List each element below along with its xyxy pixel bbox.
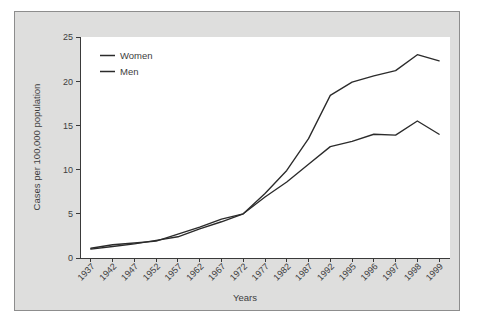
figure-root: 0510152025 19371942194719521957196219671… [0, 0, 481, 323]
x-tick-label: 1996 [359, 261, 380, 282]
x-tick-group: 1937194219471952195719621967197219771982… [76, 258, 445, 283]
y-tick-group: 0510152025 [63, 32, 80, 263]
x-tick-label: 1962 [184, 261, 205, 282]
chart-legend: Women Men [100, 50, 153, 77]
y-tick-label: 10 [63, 165, 73, 175]
x-tick-label: 1987 [293, 261, 314, 282]
legend-label-women: Women [120, 50, 153, 61]
x-tick-label: 1942 [97, 261, 118, 282]
y-axis-title: Cases per 100,000 population [31, 84, 42, 211]
line-chart: 0510152025 19371942194719521957196219671… [0, 0, 481, 323]
x-tick-label: 1995 [337, 261, 358, 282]
x-tick-label: 1937 [76, 261, 97, 282]
x-tick-label: 1952 [141, 261, 162, 282]
x-tick-label: 1947 [119, 261, 140, 282]
x-axis-title: Years [233, 292, 257, 303]
legend-label-men: Men [120, 66, 138, 77]
x-tick-label: 1998 [402, 261, 423, 282]
y-tick-label: 20 [63, 77, 73, 87]
y-tick-label: 15 [63, 121, 73, 131]
x-tick-label: 1957 [163, 261, 184, 282]
series-line-men [91, 55, 439, 249]
x-tick-label: 1972 [228, 261, 249, 282]
y-tick-label: 0 [68, 253, 73, 263]
x-tick-label: 1992 [315, 261, 336, 282]
series-group [91, 55, 439, 249]
x-tick-label: 1977 [250, 261, 271, 282]
x-tick-label: 1982 [271, 261, 292, 282]
series-line-women [91, 121, 439, 249]
y-tick-label: 5 [68, 209, 73, 219]
x-tick-label: 1967 [206, 261, 227, 282]
y-tick-label: 25 [63, 32, 73, 42]
x-tick-label: 1999 [424, 261, 445, 282]
x-tick-label: 1997 [380, 261, 401, 282]
